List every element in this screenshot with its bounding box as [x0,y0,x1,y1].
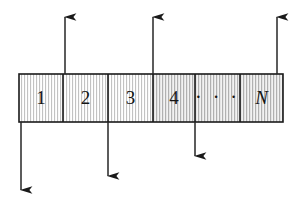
tape-cell-label-1: 1 [19,88,63,108]
tape-cell-label-n: N [240,88,283,108]
arrows-up-group [65,17,277,74]
tape-cell-label-2: 2 [63,88,108,108]
tape-cell-label-ellipsis: · · · [195,87,240,107]
tape-cell-label-3: 3 [108,88,153,108]
arrows-down-group [21,122,195,190]
array-tape-diagram: 1 2 3 4 · · · N [0,0,305,199]
tape-cell-label-4: 4 [153,88,195,108]
